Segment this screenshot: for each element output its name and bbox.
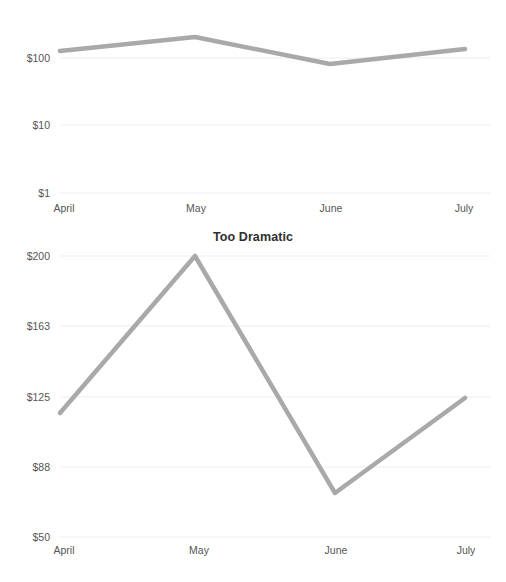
linear-chart-data-line [60,256,465,493]
linear-chart-xtick-july: July [457,544,476,556]
linear-chart-xtick-june: June [325,544,348,556]
linear-chart-ytick-3: $88 [0,461,50,473]
linear-chart-ytick-2: $125 [0,391,50,403]
log-chart-ytick-0: $100 [0,52,50,64]
log-chart-xtick-april: April [53,202,74,214]
linear-chart-ytick-1: $163 [0,320,50,332]
linear-scale-chart: Too Dramatic $200 $163 $125 $88 $50 Apri… [0,220,506,582]
linear-chart-gridlines [60,256,490,537]
log-chart-xtick-july: July [455,202,474,214]
linear-chart-xtick-may: May [189,544,209,556]
linear-chart-xtick-april: April [53,544,74,556]
log-chart-data-line [60,37,465,64]
log-scale-chart: $100 $10 $1 April May June July [0,0,506,220]
log-chart-ytick-2: $1 [0,187,50,199]
log-chart-gridlines [60,58,490,193]
linear-chart-plot-area [0,220,506,582]
log-chart-xtick-may: May [186,202,206,214]
log-chart-xtick-june: June [320,202,343,214]
linear-chart-ytick-4: $50 [0,531,50,543]
linear-chart-ytick-0: $200 [0,250,50,262]
log-chart-plot-area [0,0,506,220]
log-chart-ytick-1: $10 [0,119,50,131]
